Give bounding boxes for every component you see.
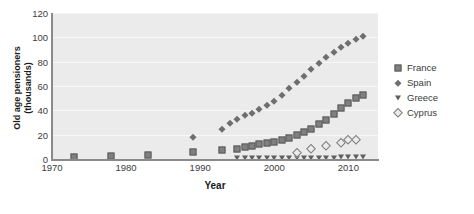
data-point-spain [293, 79, 299, 85]
data-point-spain [264, 102, 270, 108]
data-point-cyprus [306, 144, 316, 154]
data-point-france [352, 95, 359, 102]
legend-item-france[interactable]: France [392, 60, 438, 75]
y-tick-label: 40 [24, 105, 48, 116]
legend-item-cyprus[interactable]: Cyprus [392, 105, 438, 120]
data-point-france [234, 145, 241, 152]
plot-area [52, 13, 378, 159]
x-axis-tick-labels: 19701980199020002010 [0, 162, 474, 178]
data-point-spain [241, 112, 247, 118]
data-point-france [145, 151, 152, 158]
data-point-france [300, 129, 307, 136]
data-point-france [323, 117, 330, 124]
y-axis-tick-labels: 020406080100120 [24, 0, 48, 214]
x-tick-label: 1980 [116, 162, 137, 173]
square-marker-icon [392, 62, 404, 74]
y-tick-label: 20 [24, 129, 48, 140]
x-tick-label: 2000 [264, 162, 285, 173]
chart-figure: Old age pensioners (thousands) 020406080… [0, 0, 474, 214]
y-tick-label: 100 [24, 32, 48, 43]
data-point-france [219, 147, 226, 154]
x-tick-label: 1990 [190, 162, 211, 173]
gridline [52, 62, 378, 63]
data-point-france [293, 132, 300, 139]
data-point-spain [227, 119, 233, 125]
gridline [52, 37, 378, 38]
data-point-spain [308, 66, 314, 72]
data-point-spain [234, 116, 240, 122]
data-point-spain [190, 134, 196, 140]
legend: FranceSpainGreeceCyprus [392, 60, 438, 120]
legend-label: Cyprus [407, 107, 437, 118]
data-point-spain [315, 60, 321, 66]
data-point-france [278, 137, 285, 144]
diamond-open-marker-icon [392, 107, 404, 119]
legend-label: France [407, 62, 437, 73]
data-point-france [263, 140, 270, 147]
data-point-france [271, 138, 278, 145]
data-point-france [189, 148, 196, 155]
data-point-france [256, 141, 263, 148]
data-point-france [337, 104, 344, 111]
data-point-france [286, 135, 293, 142]
gridline [52, 135, 378, 136]
y-tick-label: 60 [24, 81, 48, 92]
x-tick-label: 2010 [338, 162, 359, 173]
data-point-france [108, 152, 115, 159]
legend-item-greece[interactable]: Greece [392, 90, 438, 105]
y-tick-label: 80 [24, 56, 48, 67]
data-point-cyprus [351, 135, 361, 145]
data-point-france [360, 91, 367, 98]
diamond-marker-icon [392, 77, 404, 89]
data-point-spain [345, 40, 351, 46]
legend-item-spain[interactable]: Spain [392, 75, 438, 90]
data-point-france [345, 100, 352, 107]
data-point-spain [271, 97, 277, 103]
legend-label: Spain [407, 77, 431, 88]
data-point-spain [278, 91, 284, 97]
data-point-france [249, 142, 256, 149]
x-axis-title: Year [52, 180, 378, 191]
data-point-spain [301, 73, 307, 79]
legend-label: Greece [407, 92, 438, 103]
x-axis-line [51, 159, 379, 161]
data-point-spain [256, 106, 262, 112]
data-point-spain [323, 54, 329, 60]
data-point-france [241, 143, 248, 150]
y-axis-line [51, 13, 53, 160]
gridline [52, 13, 378, 14]
data-point-spain [353, 35, 359, 41]
data-point-spain [330, 49, 336, 55]
x-tick-label: 1970 [41, 162, 62, 173]
data-point-spain [286, 85, 292, 91]
data-point-france [315, 121, 322, 128]
data-point-spain [219, 125, 225, 131]
data-point-france [330, 110, 337, 117]
data-point-spain [360, 33, 366, 39]
data-point-cyprus [321, 140, 331, 150]
y-tick-label: 120 [24, 8, 48, 19]
gridline [52, 86, 378, 87]
data-point-france [308, 125, 315, 132]
data-point-spain [338, 44, 344, 50]
triangle-down-marker-icon [392, 92, 404, 104]
